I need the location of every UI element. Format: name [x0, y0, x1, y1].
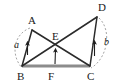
vertex-label-B: B: [17, 70, 24, 82]
vertex-label-C: C: [87, 70, 94, 82]
side-label-b: b: [104, 36, 109, 47]
vertex-label-D: D: [98, 1, 106, 13]
vertex-label-A: A: [28, 14, 36, 26]
geometry-canvas: A D B C E F a b: [0, 0, 120, 84]
tick-arrow-fe: [55, 50, 56, 64]
geometry-figure: A D B C E F a b: [0, 0, 120, 84]
segment-DC: [90, 17, 97, 66]
segment-AC: [32, 30, 90, 66]
vertex-label-E: E: [52, 30, 59, 42]
side-label-a: a: [14, 39, 19, 50]
vertex-label-F: F: [48, 70, 54, 82]
